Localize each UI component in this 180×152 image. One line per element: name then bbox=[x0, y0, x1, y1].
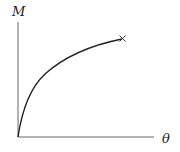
x-axis-label: θ bbox=[162, 131, 170, 146]
y-axis-label: M bbox=[11, 4, 26, 19]
end-marker-x-icon bbox=[120, 36, 126, 42]
chart: M θ bbox=[0, 0, 180, 152]
curve bbox=[18, 39, 122, 137]
